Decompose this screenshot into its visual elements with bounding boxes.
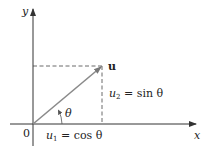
u2-rhs: = sin θ <box>124 87 163 100</box>
u1-sub: 1 <box>53 135 57 143</box>
u2-sub: 2 <box>116 93 120 101</box>
x-axis-label: x <box>194 130 200 141</box>
y-axis-label: y <box>22 6 28 17</box>
u2-component-label: u2 = sin θ <box>109 88 163 101</box>
angle-arc <box>59 111 63 125</box>
u1-component-label: u1 = cos θ <box>46 130 102 143</box>
u1-rhs: = cos θ <box>61 129 102 142</box>
origin-label: 0 <box>23 128 30 139</box>
vector-label: u <box>108 61 116 72</box>
diagram-canvas <box>0 0 208 154</box>
angle-label: θ <box>65 108 72 119</box>
